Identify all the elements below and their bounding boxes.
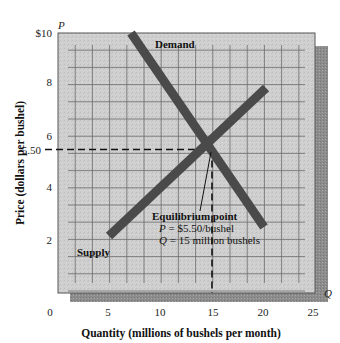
equilibrium-price-value: = $5.50/bushel [166,222,234,234]
x-tick-0: 0 [47,306,53,318]
y-tick-4: 4 [47,181,53,193]
y-tick-6: 6 [47,130,53,142]
x-axis-symbol: Q [324,287,332,299]
equilibrium-title: Equilibrium point [152,210,238,222]
y-axis-ticks: $10 8 6 5.50 4 2 [22,27,53,246]
y-axis-symbol: P [57,19,65,31]
equilibrium-quantity-value: = 15 million bushels [167,234,260,246]
x-tick-20: 20 [258,306,270,318]
y-axis-title: Price (dollars per bushel) [14,101,27,225]
y-tick-2: 2 [47,234,53,246]
supply-demand-chart: P Q $10 8 6 5.50 4 2 0 5 10 15 20 25 Dem… [0,0,340,343]
y-tick-10: $10 [36,27,53,39]
supply-label: Supply [77,246,111,258]
x-tick-5: 5 [105,306,111,318]
x-tick-10: 10 [155,306,167,318]
equilibrium-quantity: Q = 15 million bushels [159,234,260,246]
x-tick-25: 25 [308,306,320,318]
x-axis-title: Quantity (millions of bushels per month) [81,327,281,340]
y-tick-8: 8 [47,76,53,88]
equilibrium-price: P = $5.50/bushel [158,222,234,234]
demand-label: Demand [155,38,195,50]
equilibrium-quantity-symbol: Q [159,234,167,246]
x-axis-ticks: 0 5 10 15 20 25 [47,306,319,318]
x-tick-15: 15 [208,306,220,318]
